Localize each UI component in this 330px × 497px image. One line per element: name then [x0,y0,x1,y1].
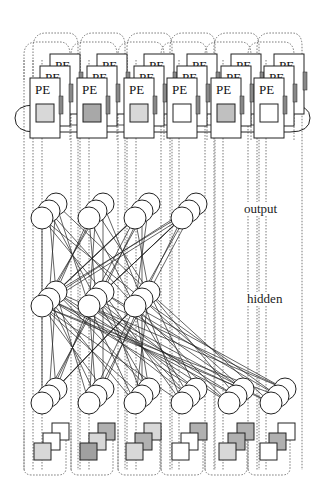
hidden-layer-label: hidden [246,292,283,306]
output-neuron [78,207,100,229]
output-layer [31,193,207,229]
input-pattern-square [80,443,97,460]
pe-state-square [83,104,101,122]
pe-port [206,84,210,102]
input-neuron [260,392,282,414]
hidden-neuron [78,295,100,317]
input-pattern-square [34,443,51,460]
pe-label: PE [216,82,231,97]
input-pattern-square [172,443,189,460]
neural-network-pe-mapping-figure: PEPEPEPEPEPEPEPEPEPEPEPEPEPEPEPEPEPE out… [0,0,330,497]
pe-port [69,84,73,102]
input-pattern-squares [34,423,295,460]
pe-port [163,84,167,102]
input-neuron [78,392,100,414]
pe-port [106,96,110,114]
pe-port [293,84,297,102]
pe-label: PE [172,82,187,97]
pe-state-square [130,104,148,122]
pe-port [303,72,307,90]
pe-label: PE [129,82,144,97]
connection [42,218,103,292]
output-neuron [171,207,193,229]
pe-state-square [173,104,191,122]
input-neuron [171,392,193,414]
pe-port [250,84,254,102]
pe-label: PE [259,82,274,97]
hidden-neuron [31,295,53,317]
pe-port [196,96,200,114]
output-neuron [31,207,53,229]
pe-state-square [217,104,235,122]
pe-label: PE [35,82,50,97]
input-neuron [31,392,53,414]
connection [142,299,243,389]
input-pattern-square [126,443,143,460]
input-pattern-square [219,443,236,460]
input-pattern-square [260,443,277,460]
figure-canvas: PEPEPEPEPEPEPEPEPEPEPEPEPEPEPEPEPEPE [0,0,330,497]
pe-port [283,96,287,114]
pe-port [116,84,120,102]
pe-port [59,96,63,114]
hidden-neuron [124,295,146,317]
pe-label: PE [82,82,97,97]
pe-state-square [260,104,278,122]
hidden-layer [31,281,160,317]
input-neuron [218,392,240,414]
pe-state-square [36,104,54,122]
output-layer-label: output [243,202,278,216]
input-neuron [124,392,146,414]
output-neuron [124,207,146,229]
pe-port [153,96,157,114]
pe-port [240,96,244,114]
